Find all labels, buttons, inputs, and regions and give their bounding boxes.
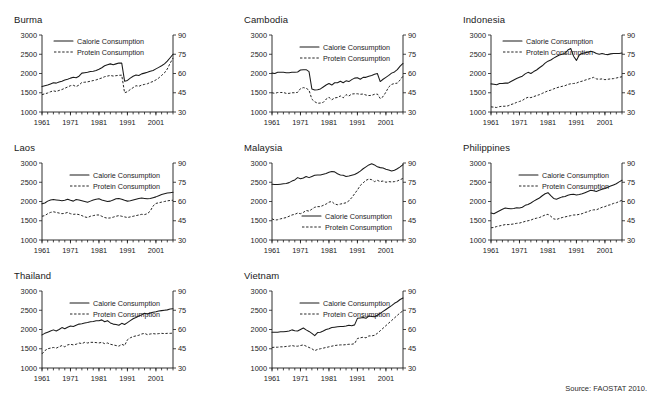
y-tick-label: 3000 (470, 159, 486, 168)
y-tick-label: 3000 (251, 31, 267, 40)
y-tick-label: 2500 (251, 50, 267, 59)
y-tick-label: 3000 (251, 287, 267, 296)
y-tick-label: 1500 (470, 216, 486, 225)
x-tick-label: 2001 (148, 246, 164, 255)
y-tick-label: 2500 (21, 50, 37, 59)
y2-tick-label: 45 (627, 216, 635, 225)
legend-label-protein: Protein Consumption (93, 182, 160, 191)
y2-tick-label: 90 (408, 31, 416, 40)
y-tick-label: 1500 (21, 216, 37, 225)
legend-label-protein: Protein Consumption (542, 182, 609, 191)
panel-cambodia: Cambodia10001500200025003000304560759019… (236, 14, 436, 138)
y-tick-label: 2000 (251, 325, 267, 334)
chart-plot: 1000150020002500300030456075901961197119… (455, 154, 655, 266)
y2-tick-label: 30 (627, 108, 635, 117)
panel-malaysia: Malaysia10001500200025003000304560759019… (236, 142, 436, 266)
legend-label-calorie: Calorie Consumption (77, 37, 144, 46)
panel-title: Laos (14, 142, 35, 153)
y2-tick-label: 90 (178, 159, 186, 168)
y2-tick-label: 90 (178, 31, 186, 40)
y2-tick-label: 60 (408, 325, 416, 334)
panel-philippines: Philippines10001500200025003000304560759… (455, 142, 655, 266)
y2-tick-label: 45 (178, 344, 186, 353)
chart-legend: Calorie ConsumptionProtein Consumption (70, 171, 160, 191)
legend-label-calorie: Calorie Consumption (542, 171, 609, 180)
panel-thailand: Thailand10001500200025003000304560759019… (6, 270, 206, 394)
legend-label-protein: Protein Consumption (325, 223, 392, 232)
x-tick-label: 2001 (597, 118, 613, 127)
x-tick-label: 1971 (292, 246, 308, 255)
panel-title: Vietnam (244, 270, 279, 281)
legend-label-protein: Protein Consumption (526, 48, 593, 57)
chart-plot: 1000150020002500300030456075901961197119… (236, 26, 436, 138)
y-tick-label: 1500 (251, 88, 267, 97)
x-tick-label: 1981 (91, 374, 107, 383)
y2-tick-label: 75 (627, 178, 635, 187)
x-tick-label: 1961 (264, 118, 280, 127)
y2-tick-label: 75 (408, 178, 416, 187)
y2-tick-label: 30 (178, 236, 186, 245)
y-tick-label: 3000 (470, 31, 486, 40)
y2-tick-label: 75 (408, 306, 416, 315)
x-tick-label: 1991 (568, 246, 584, 255)
y-tick-label: 1000 (21, 108, 37, 117)
y2-tick-label: 30 (408, 364, 416, 373)
panel-title: Burma (14, 14, 42, 25)
y2-tick-label: 90 (408, 159, 416, 168)
series-calorie-consumption (42, 54, 173, 86)
y-tick-label: 1000 (251, 108, 267, 117)
x-tick-label: 2001 (597, 246, 613, 255)
chart-legend: Calorie ConsumptionProtein Consumption (519, 171, 609, 191)
y-tick-label: 3000 (21, 159, 37, 168)
x-tick-label: 1961 (483, 118, 499, 127)
x-tick-label: 1991 (119, 374, 135, 383)
y2-tick-label: 45 (408, 216, 416, 225)
chart-plot: 1000150020002500300030456075901961197119… (6, 154, 206, 266)
x-tick-label: 1971 (511, 246, 527, 255)
y-tick-label: 3000 (21, 287, 37, 296)
y2-tick-label: 60 (178, 325, 186, 334)
x-tick-label: 1971 (62, 374, 78, 383)
y2-tick-label: 45 (627, 88, 635, 97)
y2-tick-label: 75 (178, 306, 186, 315)
y-tick-label: 1500 (470, 88, 486, 97)
y2-tick-label: 30 (408, 108, 416, 117)
y-tick-label: 1000 (21, 236, 37, 245)
x-tick-label: 1981 (91, 118, 107, 127)
x-tick-label: 2001 (148, 374, 164, 383)
x-tick-label: 1981 (540, 246, 556, 255)
x-tick-label: 2001 (378, 374, 394, 383)
y2-tick-label: 90 (627, 159, 635, 168)
legend-label-protein: Protein Consumption (323, 54, 390, 63)
y-tick-label: 2000 (21, 69, 37, 78)
y2-tick-label: 60 (408, 197, 416, 206)
y-tick-label: 1000 (251, 364, 267, 373)
x-tick-label: 1991 (568, 118, 584, 127)
x-tick-label: 1981 (540, 118, 556, 127)
series-calorie-consumption (272, 63, 403, 90)
x-tick-label: 1961 (34, 374, 50, 383)
y-tick-label: 2000 (21, 325, 37, 334)
y-tick-label: 2500 (470, 178, 486, 187)
series-calorie-consumption (272, 164, 403, 185)
series-protein-consumption (491, 200, 622, 228)
x-tick-label: 1961 (264, 374, 280, 383)
y2-tick-label: 75 (178, 178, 186, 187)
y-tick-label: 2500 (21, 178, 37, 187)
y2-tick-label: 60 (178, 197, 186, 206)
legend-label-calorie: Calorie Consumption (526, 37, 593, 46)
panel-laos: Laos100015002000250030003045607590196119… (6, 142, 206, 266)
x-tick-label: 1971 (292, 118, 308, 127)
x-tick-label: 1971 (62, 118, 78, 127)
axis-frame (491, 35, 622, 112)
small-multiples-grid: Burma10001500200025003000304560759019611… (0, 0, 655, 400)
y2-tick-label: 30 (627, 236, 635, 245)
legend-label-calorie: Calorie Consumption (93, 171, 160, 180)
y2-tick-label: 45 (408, 344, 416, 353)
chart-legend: Calorie ConsumptionProtein Consumption (300, 299, 390, 319)
y-tick-label: 2000 (470, 197, 486, 206)
y-tick-label: 3000 (251, 159, 267, 168)
panel-title: Cambodia (244, 14, 288, 25)
y2-tick-label: 45 (178, 88, 186, 97)
y-tick-label: 2500 (251, 178, 267, 187)
